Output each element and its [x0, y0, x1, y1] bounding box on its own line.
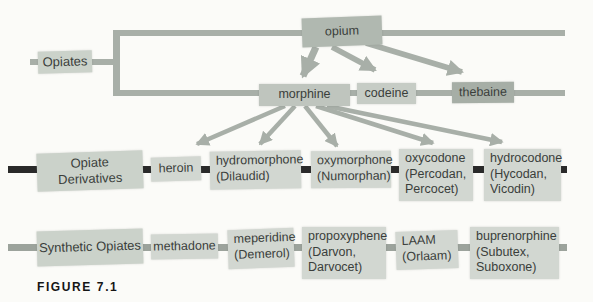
arrow-morphine-to-hydrocodone [327, 106, 502, 142]
arrow-opium-to-codeine [332, 47, 375, 70]
node-codeine: codeine [357, 83, 416, 104]
node-synthetic-opiates: Synthetic Opiates [37, 229, 144, 267]
node-opiate-derivatives: Opiate Derivatives [36, 150, 143, 192]
node-thebaine-label: thebaine [459, 84, 507, 100]
node-hydrocodone-label: hydrocodone [490, 151, 562, 167]
node-opium: opium [302, 16, 383, 48]
node-hydromorphone-brand: (Dilaudid) [216, 168, 270, 185]
node-heroin: heroin [151, 156, 202, 181]
figure-caption: FIGURE 7.1 [37, 280, 118, 294]
node-thebaine: thebaine [452, 82, 514, 104]
node-laam: LAAM (Orlaam) [395, 230, 458, 270]
bracket-vertical-line [113, 30, 120, 96]
node-codeine-label: codeine [365, 86, 409, 102]
node-oxycodone-label: oxycodone [405, 151, 465, 167]
node-buprenorphine: buprenorphine (Subutex, Suboxone) [470, 227, 559, 279]
node-meperidine: meperidine (Demerol) [227, 228, 294, 269]
node-hydrocodone-brand: (Hycodan, Vicodin) [490, 167, 547, 198]
node-laam-brand: (Orlaam) [402, 248, 452, 265]
node-propoxyphene: propoxyphene (Darvon, Darvocet) [302, 227, 386, 279]
opiates-connector-line [90, 59, 115, 65]
node-hydrocodone: hydrocodone (Hycodan, Vicodin) [484, 149, 561, 201]
node-oxymorphone-brand: (Numorphan) [317, 168, 391, 184]
node-morphine: morphine [259, 84, 350, 106]
node-oxymorphone-label: oxymorphone [317, 153, 393, 169]
arrow-morphine-to-oxymorphone [305, 106, 337, 146]
node-methadone: methadone [151, 233, 218, 259]
arrow-opium-to-thebaine [366, 43, 462, 72]
arrow-opium-to-morphine [303, 47, 316, 76]
node-oxycodone-brand: (Percodan, Percocet) [405, 167, 466, 198]
node-synthetic-opiates-label: Synthetic Opiates [39, 238, 141, 257]
node-oxymorphone: oxymorphone (Numorphan) [311, 151, 391, 189]
node-methadone-label: methadone [153, 238, 216, 255]
node-propoxyphene-brand: (Darvon, Darvocet) [308, 245, 362, 276]
arrow-morphine-to-heroin [197, 106, 285, 144]
node-opium-label: opium [325, 23, 360, 40]
node-propoxyphene-label: propoxyphene [308, 229, 387, 245]
node-hydromorphone: hydromorphone (Dilaudid) [210, 150, 302, 190]
node-hydromorphone-label: hydromorphone [216, 152, 304, 169]
arrow-morphine-to-hydromorphone [260, 106, 295, 144]
node-opiate-derivatives-label: Opiate Derivatives [36, 153, 143, 189]
node-oxycodone: oxycodone (Percodan, Percocet) [399, 149, 473, 201]
node-heroin-label: heroin [158, 161, 193, 178]
node-meperidine-brand: (Demerol) [234, 246, 290, 264]
arrow-morphine-to-oxycodone [316, 106, 433, 143]
node-buprenorphine-label: buprenorphine [476, 229, 557, 245]
node-opiates-label: Opiates [42, 53, 87, 70]
node-buprenorphine-brand: (Subutex, Suboxone) [476, 245, 536, 276]
figure-7-1-diagram: Opiates opium morphine codeine thebaine … [0, 0, 593, 302]
node-morphine-label: morphine [278, 87, 330, 103]
node-opiates: Opiates [38, 50, 93, 73]
node-laam-label: LAAM [401, 233, 436, 250]
